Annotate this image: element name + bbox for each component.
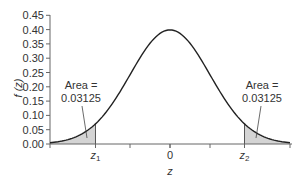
shaded-tail-1 xyxy=(50,125,95,144)
annotation-area-label: Area = xyxy=(246,79,279,91)
x-axis-ticks: z10z2 xyxy=(50,144,290,163)
annotation-leader-line xyxy=(256,106,261,138)
normal-distribution-chart: 0.000.050.100.150.200.250.300.350.400.45… xyxy=(0,0,299,183)
x-tick-label: 0 xyxy=(167,149,173,161)
y-tick-label: 0.45 xyxy=(23,9,44,21)
x-tick-label: z2 xyxy=(239,149,251,163)
y-tick-label: 0.30 xyxy=(23,52,44,64)
y-tick-label: 0.20 xyxy=(23,81,44,93)
y-tick-label: 0.25 xyxy=(23,67,44,79)
shaded-tail-2 xyxy=(245,124,290,144)
y-axis-ticks: 0.000.050.100.150.200.250.300.350.400.45 xyxy=(23,9,50,150)
y-tick-label: 0.10 xyxy=(23,109,44,121)
y-tick-label: 0.35 xyxy=(23,38,44,50)
annotation-area-label: Area = xyxy=(65,79,98,91)
y-tick-label: 0.15 xyxy=(23,95,44,107)
x-axis-label: z xyxy=(166,165,173,177)
annotation-area-value: 0.03125 xyxy=(61,92,101,104)
y-tick-label: 0.00 xyxy=(23,138,44,150)
annotation-area-value: 0.03125 xyxy=(242,92,282,104)
y-axis-label: f (z) xyxy=(12,78,24,97)
x-tick-label: z1 xyxy=(90,149,102,163)
y-tick-label: 0.40 xyxy=(23,24,44,36)
y-tick-label: 0.05 xyxy=(23,124,44,136)
